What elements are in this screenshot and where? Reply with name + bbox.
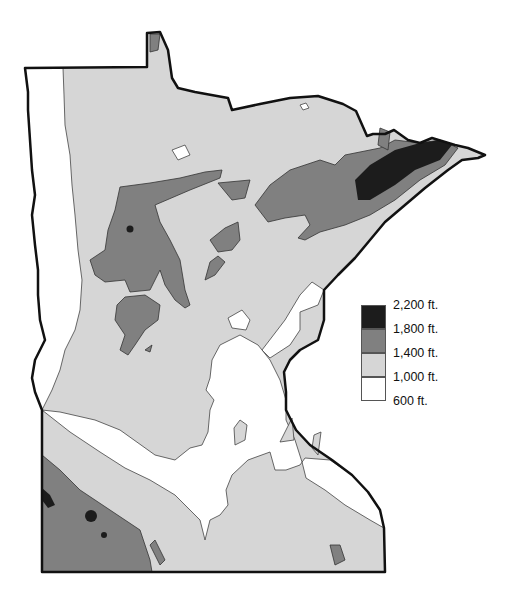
legend-label-600: 600 ft. bbox=[393, 394, 428, 408]
legend-label-1400: 1,400 ft. bbox=[393, 346, 438, 360]
legend-label-1800: 1,800 ft. bbox=[393, 322, 438, 336]
legend-label-1000: 1,000 ft. bbox=[393, 370, 438, 384]
legend-swatch-2200 bbox=[361, 305, 386, 329]
legend-swatch-1400 bbox=[361, 353, 386, 377]
legend-swatch-1800 bbox=[361, 329, 386, 353]
legend-swatch-1000 bbox=[361, 377, 386, 401]
legend-label-2200: 2,200 ft. bbox=[393, 298, 438, 312]
